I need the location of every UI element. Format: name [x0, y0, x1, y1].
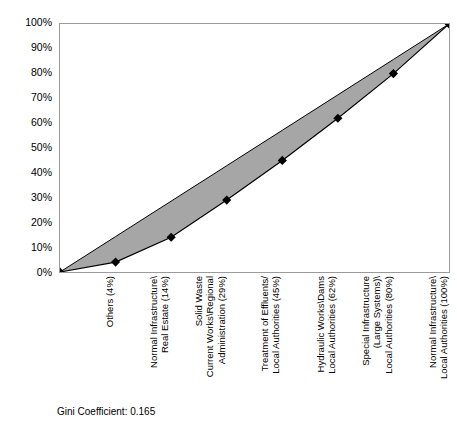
y-axis-tick-labels: 0%10%20%30%40%50%60%70%80%90%100% — [6, 0, 52, 300]
x-axis-category-label-line: Solid Waste — [192, 276, 203, 377]
y-axis-tick-30pct: 30% — [8, 192, 52, 203]
x-axis-category-label-line: Normal Infrastructure\ — [148, 276, 159, 368]
x-axis-category-label: Solid WasteCurrent Works\RegionalAdminis… — [192, 276, 226, 377]
x-axis-category-label-line: Local Authorities (80%) — [383, 276, 394, 374]
y-axis-tick-40pct: 40% — [8, 167, 52, 178]
x-axis-category-label-line: Current Works\Regional — [204, 276, 215, 377]
x-axis-category-label-line: Others (4%) — [103, 276, 114, 327]
x-axis-category-label-line: Normal Infrastructure\ — [427, 276, 438, 379]
x-axis-category-label-line: Hydraulic Works\Dams — [315, 276, 326, 374]
x-axis-category-label: Normal Infrastructure\Local Authorities … — [427, 276, 450, 379]
x-axis-category-label-line: Administration (29%) — [215, 276, 226, 377]
line-of-equality — [60, 24, 449, 272]
x-axis-category-label: Special Infrastructure(Large Systems)\Lo… — [360, 276, 394, 374]
x-axis-category-labels: Others (4%)Normal Infrastructure\Real Es… — [59, 276, 450, 416]
x-axis-category-label-line: Local Authorities (100%) — [439, 276, 450, 379]
x-axis-category-label: Treatment of Effluents/Local Authorities… — [260, 276, 283, 374]
plot-svg — [60, 24, 449, 272]
x-axis-category-label: Normal Infrastructure\Real Estate (14%) — [148, 276, 171, 368]
x-axis-category-label-line: Special Infrastructure — [360, 276, 371, 374]
y-axis-tick-100pct: 100% — [8, 17, 52, 28]
y-axis-tick-60pct: 60% — [8, 117, 52, 128]
y-axis-tick-90pct: 90% — [8, 42, 52, 53]
x-axis-category-label-line: Local Authorities (45%) — [271, 276, 282, 374]
x-axis-category-label: Others (4%) — [103, 276, 114, 327]
y-axis-tick-20pct: 20% — [8, 217, 52, 228]
x-axis-category-label: Hydraulic Works\DamsLocal Authorities (6… — [315, 276, 338, 374]
y-axis-tick-0pct: 0% — [8, 267, 52, 278]
lorenz-curve-chart: 0%10%20%30%40%50%60%70%80%90%100% Others… — [0, 0, 457, 436]
y-axis-tick-80pct: 80% — [8, 67, 52, 78]
gini-coefficient-note: Gini Coefficient: 0.165 — [57, 406, 155, 418]
x-axis-category-label-line: Real Estate (14%) — [159, 276, 170, 368]
y-axis-tick-50pct: 50% — [8, 142, 52, 153]
x-axis-category-label-line: (Large Systems)\ — [371, 276, 382, 374]
y-axis-tick-70pct: 70% — [8, 92, 52, 103]
y-axis-tick-10pct: 10% — [8, 242, 52, 253]
plot-area — [59, 23, 450, 273]
x-axis-category-label-line: Local Authorities (62%) — [327, 276, 338, 374]
x-axis-category-label-line: Treatment of Effluents/ — [260, 276, 271, 374]
